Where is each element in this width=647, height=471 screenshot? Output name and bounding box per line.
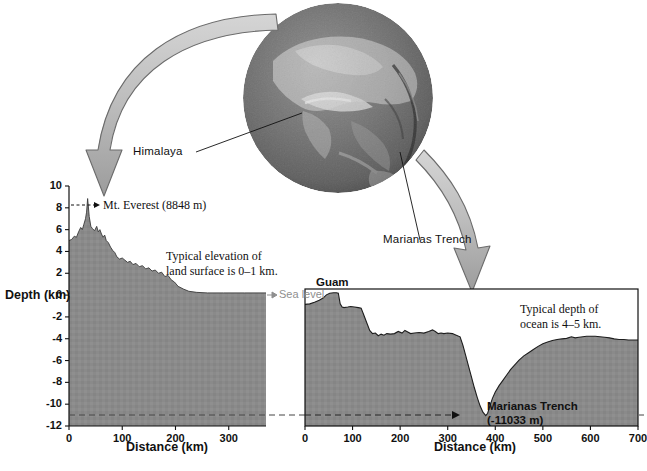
tick-label: 100 [113, 432, 131, 444]
tick-label: -12 [46, 419, 62, 431]
right-x-ticks [305, 426, 638, 430]
arrow-to-himalaya-profile [86, 14, 278, 196]
everest-pointer-arrow-icon [94, 202, 100, 208]
tick-label: 500 [534, 432, 552, 444]
tick-label: 0 [66, 432, 72, 444]
tick-label: 0 [56, 288, 62, 300]
marianas-trench-globe-label: Marianas Trench [383, 233, 472, 245]
marianas-trench-value-label-line1: Marianas Trench [487, 400, 578, 412]
tick-label: 200 [166, 432, 184, 444]
ocean-depth-note-line2: ocean is 4–5 km. [520, 317, 601, 332]
tick-label: 8 [56, 201, 62, 213]
tick-label: 6 [56, 223, 62, 235]
tick-label: 4 [56, 244, 62, 256]
sea-level-label: Sea level [279, 288, 324, 300]
mt-everest-label: Mt. Everest (8848 m) [103, 198, 206, 213]
tick-label: 400 [486, 432, 504, 444]
land-elevation-note-line2: land surface is 0–1 km. [166, 264, 278, 279]
tick-label: 700 [629, 432, 647, 444]
tick-label: 2 [56, 266, 62, 278]
ocean-depth-note-line1: Typical depth of [520, 302, 598, 317]
tick-label: -6 [52, 354, 62, 366]
tick-label: 100 [343, 432, 361, 444]
sea-level-arrow-icon [268, 292, 277, 298]
guam-label: Guam [316, 276, 349, 288]
arrow-to-marianas-profile [416, 150, 490, 292]
marianas-trench-value-label-line2: (-11033 m) [487, 414, 543, 426]
himalaya-leader-line [196, 113, 302, 152]
tick-label: -2 [52, 310, 62, 322]
tick-label: 10 [50, 179, 62, 191]
tick-label: 600 [581, 432, 599, 444]
tick-label: 300 [439, 432, 457, 444]
himalaya-label: Himalaya [133, 145, 183, 157]
marianas-leader-line [400, 152, 420, 240]
tick-label: -10 [46, 397, 62, 409]
tick-label: -8 [52, 375, 62, 387]
tick-label: 200 [391, 432, 409, 444]
land-elevation-note-line1: Typical elevation of [166, 249, 262, 264]
tick-label: 300 [220, 432, 238, 444]
tick-label: 0 [302, 432, 308, 444]
tick-label: -4 [52, 332, 62, 344]
